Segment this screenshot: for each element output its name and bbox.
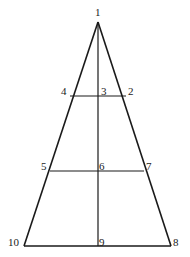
point-label-2: 2 [128,85,134,97]
point-label-10: 10 [8,236,20,248]
point-label-9: 9 [99,236,105,248]
point-label-7: 7 [146,160,152,172]
point-label-3: 3 [101,85,107,97]
left-side-line [24,22,98,246]
point-label-8: 8 [173,236,179,248]
point-label-1: 1 [95,6,101,18]
point-label-6: 6 [99,160,105,172]
point-label-4: 4 [61,85,67,97]
point-label-5: 5 [41,160,47,172]
triangle-diagram: 1 2 3 4 5 6 7 8 9 10 [0,0,190,257]
right-side-line [98,22,171,246]
